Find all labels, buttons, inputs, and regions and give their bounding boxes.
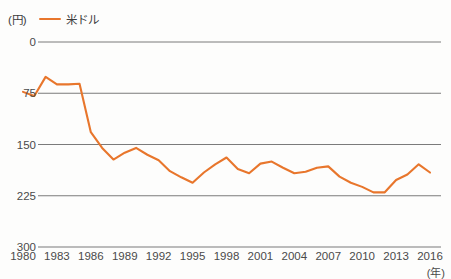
x-tick-label: 2001 (248, 250, 274, 262)
series-line-米ドル (23, 77, 430, 192)
x-tick-label: 1992 (146, 250, 172, 262)
series-lines (23, 77, 430, 192)
x-tick-label: 2013 (383, 250, 409, 262)
x-tick-label: 1980 (10, 250, 36, 262)
y-tick-label: 225 (0, 190, 36, 202)
x-tick-label: 1995 (180, 250, 206, 262)
x-tick-label: 1983 (44, 250, 70, 262)
x-axis-unit-label: (年) (427, 264, 445, 279)
y-tick-label: 0 (0, 36, 36, 48)
y-tick-label: 150 (0, 139, 36, 151)
x-tick-label: 2007 (315, 250, 341, 262)
y-axis-tick-labels: 300225150750 (0, 0, 36, 279)
x-tick-label: 2016 (417, 250, 443, 262)
x-tick-label: 2010 (349, 250, 375, 262)
x-tick-label: 2004 (282, 250, 308, 262)
x-axis-tick-labels: 1980198319861989199219951998200120042007… (0, 250, 451, 266)
x-tick-label: 1989 (112, 250, 138, 262)
y-tick-label: 75 (0, 87, 36, 99)
line-chart-plot (0, 0, 451, 279)
chart-container: (円) 米ドル 300225150750 1980198319861989199… (0, 0, 451, 279)
x-tick-label: 1998 (214, 250, 240, 262)
x-tick-label: 1986 (78, 250, 104, 262)
